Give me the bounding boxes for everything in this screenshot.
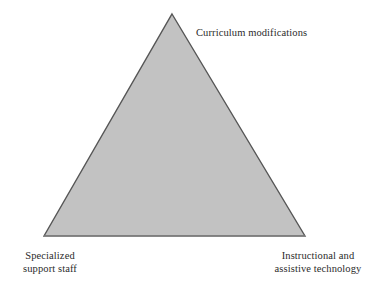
label-line: Instructional and xyxy=(262,249,374,262)
label-line: assistive technology xyxy=(262,262,374,275)
label-line: Curriculum modifications xyxy=(196,26,307,39)
label-line: support staff xyxy=(10,262,90,275)
label-instructional-assistive-technology: Instructional and assistive technology xyxy=(262,249,374,275)
label-line: Specialized xyxy=(10,249,90,262)
label-curriculum-modifications: Curriculum modifications xyxy=(196,26,307,39)
figure-canvas: Curriculum modifications Specialized sup… xyxy=(0,0,377,286)
triangle-shape xyxy=(44,14,305,236)
label-specialized-support-staff: Specialized support staff xyxy=(10,249,90,275)
triangle-graphic xyxy=(0,0,377,286)
